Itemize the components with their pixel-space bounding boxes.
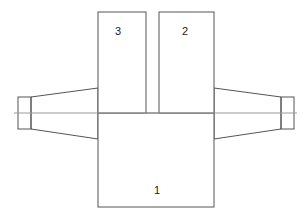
technical-diagram: 3 2 1 (0, 0, 308, 221)
diagram-canvas: 3 2 1 (0, 0, 308, 221)
left-fin-shape (98, 12, 146, 113)
part-label-1: 1 (154, 184, 160, 196)
part-label-2: 2 (182, 25, 188, 37)
part-label-3: 3 (115, 25, 121, 37)
